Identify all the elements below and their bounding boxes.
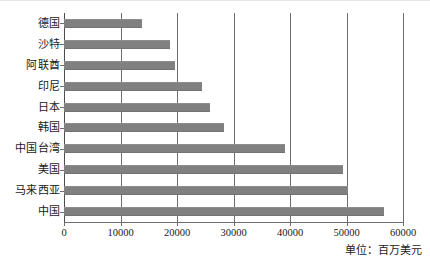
bar-row	[64, 13, 403, 34]
bar-chart-figure: 德国沙特阿联酋印尼日本韩国中国台湾美国马来西亚中国 01000020000300…	[0, 0, 430, 265]
bar	[64, 144, 285, 153]
gridline-60000	[403, 13, 404, 222]
x-axis-tick-label: 40000	[277, 228, 303, 239]
bar-row	[64, 34, 403, 55]
y-axis-tick	[60, 128, 64, 129]
x-axis-tick	[234, 222, 235, 226]
x-axis-tick-label: 0	[61, 228, 66, 239]
bar-row	[64, 118, 403, 139]
y-axis-label: 中国	[0, 201, 60, 222]
x-axis-tick	[403, 222, 404, 226]
y-axis-tick	[60, 107, 64, 108]
bar-row	[64, 180, 403, 201]
y-axis-category-labels: 德国沙特阿联酋印尼日本韩国中国台湾美国马来西亚中国	[0, 13, 60, 222]
bar-row	[64, 201, 403, 222]
x-axis-tick	[177, 222, 178, 226]
bar	[64, 103, 210, 112]
y-axis-label: 日本	[0, 97, 60, 118]
plot-area	[64, 13, 403, 222]
bar-row	[64, 138, 403, 159]
y-axis-label: 德国	[0, 13, 60, 34]
bar	[64, 40, 170, 49]
y-axis-label: 韩国	[0, 118, 60, 139]
x-axis-tick	[121, 222, 122, 226]
top-border-rule	[0, 0, 430, 1]
bar-row	[64, 159, 403, 180]
bar	[64, 19, 142, 28]
y-axis-tick	[60, 65, 64, 66]
x-axis-tick	[347, 222, 348, 226]
x-axis-tick-label: 30000	[220, 228, 246, 239]
bar	[64, 123, 224, 132]
bar	[64, 165, 343, 174]
y-axis-tick	[60, 149, 64, 150]
y-axis-label: 中国台湾	[0, 138, 60, 159]
bar-row	[64, 97, 403, 118]
y-axis-tick	[60, 191, 64, 192]
y-axis-tick	[60, 86, 64, 87]
x-axis-tick-label: 60000	[390, 228, 416, 239]
y-axis-tick	[60, 212, 64, 213]
bar	[64, 186, 348, 195]
unit-annotation: 单位：百万美元	[345, 245, 422, 256]
x-axis-tick-label: 10000	[107, 228, 133, 239]
y-axis-tick	[60, 170, 64, 171]
y-axis-label: 沙特	[0, 34, 60, 55]
y-axis-tick	[60, 23, 64, 24]
y-axis-label: 美国	[0, 159, 60, 180]
y-axis-label: 马来西亚	[0, 180, 60, 201]
bar-row	[64, 55, 403, 76]
y-axis-label: 阿联酋	[0, 55, 60, 76]
x-axis-tick-label: 20000	[164, 228, 190, 239]
bar-row	[64, 76, 403, 97]
bars-container	[64, 13, 403, 222]
y-axis-label: 印尼	[0, 76, 60, 97]
bar	[64, 82, 202, 91]
x-axis-tick	[290, 222, 291, 226]
x-axis-tick-label: 50000	[333, 228, 359, 239]
bar	[64, 207, 384, 216]
x-axis-tick	[64, 222, 65, 226]
y-axis-tick	[60, 44, 64, 45]
bar	[64, 61, 175, 70]
